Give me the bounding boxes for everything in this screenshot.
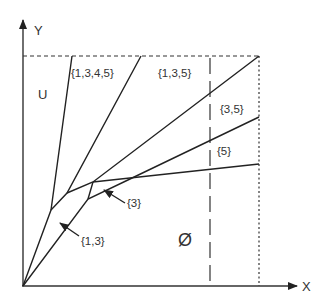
set-region-diagram: Y X U {1,3,4,5} {1,3,5} {3,5} {5} {3} {1… xyxy=(0,0,327,303)
region-label-35: {3,5} xyxy=(220,103,244,115)
region-label-universal: U xyxy=(38,87,47,102)
region-label-3: {3} xyxy=(127,197,141,209)
boundary-1345-135 xyxy=(51,56,141,210)
pointer-arrow-13 xyxy=(60,223,79,236)
region-label-13: {1,3} xyxy=(81,235,105,247)
y-axis-label: Y xyxy=(34,23,43,38)
region-label-5: {5} xyxy=(217,145,231,157)
region-label-empty: Ø xyxy=(178,230,192,250)
axes xyxy=(22,20,297,286)
x-axis-label: X xyxy=(302,279,311,294)
boundary-5-empty xyxy=(93,164,259,182)
region-label-135: {1,3,5} xyxy=(158,67,191,79)
pointer-arrow-3 xyxy=(104,190,125,203)
region-label-1345: {1,3,4,5} xyxy=(71,67,114,79)
boundary-lines xyxy=(23,56,259,286)
boundary-u-1345 xyxy=(23,56,72,286)
